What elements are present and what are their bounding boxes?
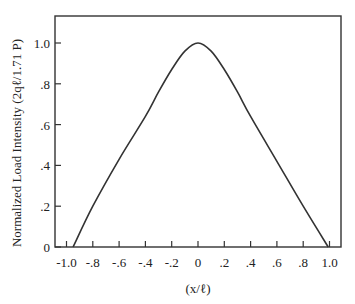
y-tick-label: .8	[40, 77, 50, 92]
x-tick-label: .4	[246, 255, 256, 270]
plot-frame	[55, 16, 341, 247]
y-tick-label: 0	[44, 240, 51, 255]
y-tick-label: .6	[40, 118, 50, 133]
x-axis-ticks: -1.0-.8-.6-.4-.20.2.4.6.81.0	[56, 241, 337, 270]
x-tick-label: -.4	[138, 255, 153, 270]
y-tick-label: .4	[40, 158, 50, 173]
chart: -1.0-.8-.6-.4-.20.2.4.6.81.0 0.2.4.6.81.…	[0, 0, 355, 304]
y-tick-label: .2	[40, 199, 50, 214]
x-tick-label: 1.0	[321, 255, 337, 270]
x-tick-label: .2	[219, 255, 229, 270]
y-axis-ticks: 0.2.4.6.81.0	[34, 36, 61, 255]
x-tick-label: -.6	[112, 255, 127, 270]
x-tick-label: -.2	[165, 255, 179, 270]
x-tick-label: 0	[195, 255, 202, 270]
load-intensity-curve	[73, 43, 328, 247]
x-tick-label: -1.0	[56, 255, 77, 270]
y-tick-label: 1.0	[34, 36, 50, 51]
x-tick-label: .8	[298, 255, 308, 270]
x-axis-label: (x/ℓ)	[186, 281, 211, 296]
x-tick-label: -.8	[86, 255, 100, 270]
x-tick-label: .6	[272, 255, 282, 270]
y-axis-label: Normalized Load Intensity (2qℓ/1.71 P)	[9, 39, 24, 247]
